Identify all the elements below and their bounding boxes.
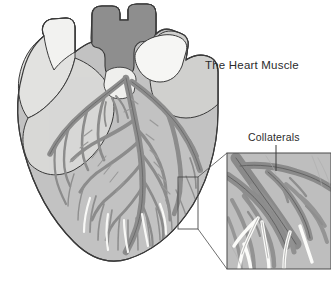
collaterals-label: Collaterals (248, 131, 300, 143)
collaterals-inset (227, 153, 331, 270)
heart-body-group (18, 4, 218, 261)
connector-line-bottom (198, 229, 227, 269)
page-title: The Heart Muscle (205, 59, 299, 71)
